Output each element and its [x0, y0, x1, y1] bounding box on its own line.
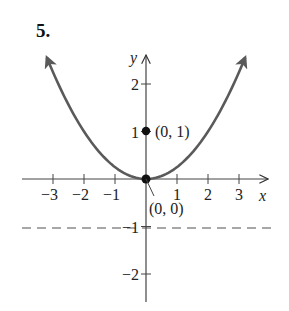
figure: 5. −3−2−1123 −2−112 x y (0, 1) (0, 0)	[0, 0, 289, 311]
x-tick-label: −1	[103, 186, 120, 203]
y-tick-label: −1	[122, 219, 139, 236]
point-label-focus: (0, 1)	[155, 123, 190, 141]
y-tick-label: 2	[131, 76, 139, 93]
point-focus	[142, 127, 150, 135]
y-tick-label: 1	[131, 124, 139, 141]
x-tick-label: −3	[41, 186, 58, 203]
x-axis-label: x	[258, 187, 266, 204]
x-tick-label: 3	[235, 186, 243, 203]
y-axis-label: y	[128, 49, 138, 67]
x-tick-label: 2	[204, 186, 212, 203]
x-tick-label: −2	[72, 186, 89, 203]
vertex-leader-line	[146, 179, 154, 196]
y-tick-label: −2	[122, 266, 139, 283]
parabola-chart: 5. −3−2−1123 −2−112 x y (0, 1) (0, 0)	[0, 0, 289, 311]
problem-number: 5.	[36, 20, 50, 41]
point-label-vertex: (0, 0)	[149, 200, 184, 218]
